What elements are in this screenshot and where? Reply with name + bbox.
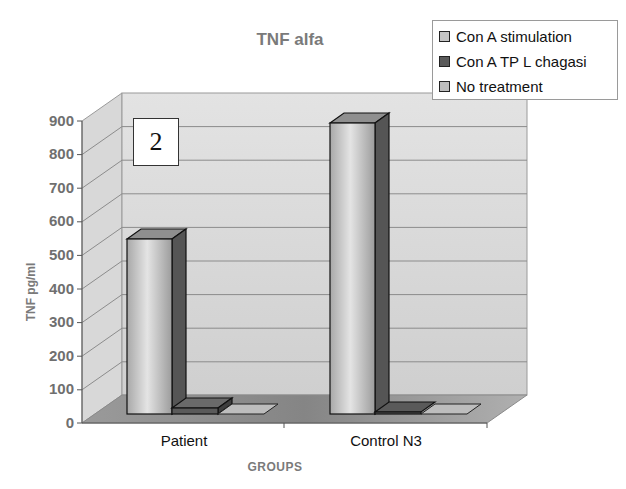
y-tick-label: 300 bbox=[18, 314, 74, 330]
legend: Con A stimulation Con A TP L chagasi No … bbox=[432, 20, 618, 100]
x-tick-label-control: Control N3 bbox=[316, 432, 456, 449]
y-tick-label: 400 bbox=[18, 281, 74, 297]
legend-label: Con A TP L chagasi bbox=[456, 53, 587, 70]
y-tick-label: 700 bbox=[18, 180, 74, 196]
legend-item: Con A TP L chagasi bbox=[433, 49, 617, 74]
y-tick-label: 500 bbox=[18, 247, 74, 263]
legend-item: Con A stimulation bbox=[433, 24, 617, 49]
panel-label: 2 bbox=[133, 118, 179, 166]
x-tick-label-patient: Patient bbox=[114, 432, 254, 449]
legend-swatch-icon bbox=[439, 31, 450, 42]
y-tick-label: 600 bbox=[18, 213, 74, 229]
bar-control-cona bbox=[330, 113, 389, 414]
left-wall bbox=[82, 93, 122, 423]
y-tick-label: 100 bbox=[18, 381, 74, 397]
legend-swatch-icon bbox=[439, 81, 450, 92]
y-tick-label: 900 bbox=[18, 113, 74, 129]
legend-label: No treatment bbox=[456, 78, 543, 95]
x-axis-label: GROUPS bbox=[220, 460, 330, 474]
legend-swatch-icon bbox=[439, 56, 450, 67]
y-tick-label: 200 bbox=[18, 348, 74, 364]
legend-item: No treatment bbox=[433, 74, 617, 99]
y-tick-label: 0 bbox=[18, 415, 74, 431]
legend-label: Con A stimulation bbox=[456, 28, 572, 45]
bar-patient-cona bbox=[127, 229, 186, 414]
chart-title: TNF alfa bbox=[230, 30, 350, 50]
y-tick-label: 800 bbox=[18, 146, 74, 162]
